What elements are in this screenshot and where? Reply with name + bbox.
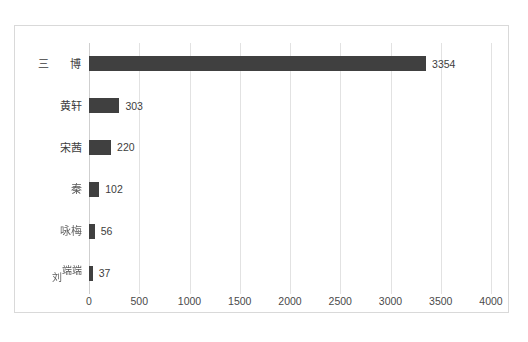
bar-series: 三 博3354黄轩303宋茜220秦102咏梅56刘端端37 xyxy=(89,43,491,294)
category-label-lead: 刘 xyxy=(52,273,62,283)
bar[interactable] xyxy=(89,56,426,71)
category-label: 黄轩 xyxy=(60,100,82,111)
x-axis-tick-label: 0 xyxy=(86,296,92,307)
x-axis-tick-label: 1000 xyxy=(178,296,201,307)
gridline-4000 xyxy=(491,43,492,294)
bar-row[interactable]: 宋茜220 xyxy=(89,140,491,155)
x-axis-tick-label: 4000 xyxy=(479,296,502,307)
x-axis-tick-label: 500 xyxy=(130,296,148,307)
bar[interactable] xyxy=(89,140,111,155)
x-axis-tick-label: 3000 xyxy=(379,296,402,307)
x-axis-tick-label: 3500 xyxy=(429,296,452,307)
bar-value-label: 102 xyxy=(105,184,123,195)
bar-value-label: 56 xyxy=(101,226,113,237)
category-label: 刘端端 xyxy=(52,268,82,279)
category-label: 秦 xyxy=(71,184,82,195)
x-axis-tick-label: 1500 xyxy=(228,296,251,307)
bar-value-label: 3354 xyxy=(432,59,455,70)
x-axis: 05001000150020002500300035004000 xyxy=(89,296,491,312)
bar-row[interactable]: 三 博3354 xyxy=(89,56,491,71)
bar[interactable] xyxy=(89,98,119,113)
x-axis-tick-label: 2500 xyxy=(329,296,352,307)
bar-row[interactable]: 秦102 xyxy=(89,182,491,197)
bar[interactable] xyxy=(89,266,93,281)
bar-value-label: 303 xyxy=(125,101,143,112)
bar-value-label: 220 xyxy=(117,142,135,153)
category-label: 咏梅 xyxy=(60,226,82,237)
bar[interactable] xyxy=(89,224,95,239)
category-label-tail: 端端 xyxy=(62,266,82,276)
bar-row[interactable]: 咏梅56 xyxy=(89,224,491,239)
plot-area: 三 博3354黄轩303宋茜220秦102咏梅56刘端端37 xyxy=(89,43,491,294)
bar[interactable] xyxy=(89,182,99,197)
bar-value-label: 37 xyxy=(99,268,111,279)
bar-row[interactable]: 黄轩303 xyxy=(89,98,491,113)
bar-row[interactable]: 刘端端37 xyxy=(89,266,491,281)
chart-frame: 三 博3354黄轩303宋茜220秦102咏梅56刘端端37 050010001… xyxy=(14,25,509,313)
category-label: 宋茜 xyxy=(60,142,82,153)
category-label: 三 博 xyxy=(38,58,90,69)
x-axis-tick-label: 2000 xyxy=(278,296,301,307)
